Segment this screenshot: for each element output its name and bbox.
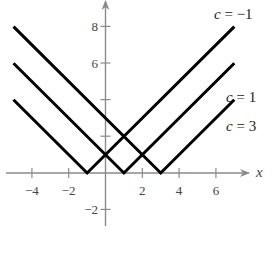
- series-label-c-3: c = 3: [226, 118, 256, 134]
- y-tick-label: 6: [92, 56, 99, 71]
- y-tick-label: 8: [92, 19, 99, 34]
- c-value: = −1: [221, 6, 253, 22]
- line-c-minus-1: [14, 27, 235, 173]
- series-label-c-1: c = 1: [226, 89, 256, 105]
- chart-svg: −4 −2 2 4 6 −2 6 8 x c = −1 c = 1: [0, 0, 275, 277]
- x-tick-label: 6: [213, 183, 220, 198]
- x-tick-label: −4: [25, 183, 39, 198]
- series-lines: [14, 27, 235, 173]
- c-value: = 3: [233, 118, 256, 134]
- line-c-3: [14, 27, 235, 173]
- y-tick-labels: −2 6 8: [84, 19, 98, 217]
- series-label-c-minus-1: c = −1: [214, 6, 253, 22]
- x-tick-label: −2: [62, 183, 76, 198]
- y-tick-label: −2: [84, 202, 98, 217]
- c-value: = 1: [233, 89, 256, 105]
- chart-container: −4 −2 2 4 6 −2 6 8 x c = −1 c = 1: [0, 0, 275, 277]
- x-tick-label: 4: [176, 183, 183, 198]
- line-c-1: [14, 63, 235, 173]
- x-tick-labels: −4 −2 2 4 6: [25, 183, 220, 198]
- x-tick-label: 2: [139, 183, 146, 198]
- x-axis-label: x: [255, 164, 263, 180]
